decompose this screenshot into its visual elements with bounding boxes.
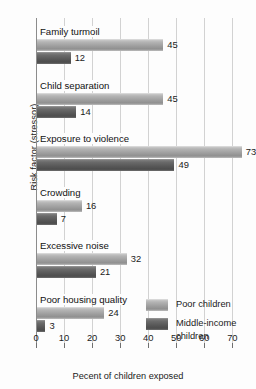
bar-value-label: 16 [86, 200, 96, 211]
legend-item: Middle-income children [146, 317, 254, 342]
bar [37, 213, 57, 225]
bar [37, 39, 163, 51]
bar [37, 106, 76, 118]
bar [37, 266, 96, 278]
chart-figure: Risk factor (stressor) Family turmoil451… [0, 0, 256, 389]
category-label: Child separation [40, 80, 111, 91]
legend-label: Middle-income children [176, 317, 254, 342]
category-label: Poor housing quality [40, 294, 129, 305]
bar-value-label: 24 [108, 307, 118, 318]
bar [37, 146, 242, 158]
legend-swatch [146, 318, 168, 330]
bar-value-label: 3 [49, 320, 54, 331]
legend-swatch [146, 299, 168, 311]
x-axis-title: Pecent of children exposed [0, 371, 256, 381]
x-axis-tick-label: 30 [105, 332, 135, 343]
category-label: Excessive noise [40, 240, 111, 251]
plot-area: Family turmoil4512Child separation4514Ex… [36, 18, 252, 343]
category-label: Family turmoil [40, 26, 102, 37]
x-axis-tick-label: 0 [21, 332, 51, 343]
bar-value-label: 12 [75, 52, 85, 63]
x-axis-tick-label: 20 [77, 332, 107, 343]
bar-group: Family turmoil4512 [37, 26, 253, 63]
bar-group: Child separation4514 [37, 80, 253, 117]
chart-legend: Poor childrenMiddle-income children [146, 298, 254, 348]
bar [37, 93, 163, 105]
bar-value-label: 7 [61, 213, 66, 224]
bar-value-label: 14 [80, 106, 90, 117]
legend-label: Poor children [176, 298, 254, 311]
bar-group: Exposure to violence7349 [37, 133, 253, 170]
bar-group: Crowding167 [37, 187, 253, 224]
bar [37, 200, 82, 212]
bar-value-label: 49 [178, 159, 188, 170]
x-axis-tick [120, 343, 121, 348]
bar-value-label: 45 [167, 39, 177, 50]
x-axis-tick-label: 10 [49, 332, 79, 343]
legend-item: Poor children [146, 298, 254, 311]
x-axis-tick [36, 343, 37, 348]
bar-group: Excessive noise3221 [37, 240, 253, 277]
bar-value-label: 32 [131, 253, 141, 264]
x-axis-tick [64, 343, 65, 348]
category-label: Crowding [40, 187, 83, 198]
bar-value-label: 73 [246, 146, 256, 157]
category-label: Exposure to violence [40, 133, 131, 144]
bar-value-label: 21 [100, 266, 110, 277]
bar [37, 159, 174, 171]
bar [37, 52, 71, 64]
bar [37, 307, 104, 319]
x-axis-tick [92, 343, 93, 348]
bar [37, 253, 127, 265]
bar [37, 320, 45, 332]
bar-value-label: 45 [167, 93, 177, 104]
